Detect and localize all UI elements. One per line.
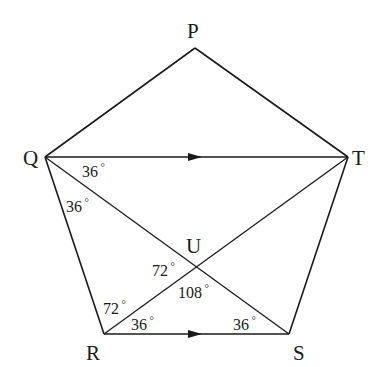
svg-text:36: 36 bbox=[82, 163, 98, 180]
vertex-label-Q: Q bbox=[23, 146, 38, 170]
vertex-label-U: U bbox=[186, 234, 201, 258]
svg-text:36: 36 bbox=[131, 316, 147, 333]
svg-text:36: 36 bbox=[233, 316, 249, 333]
degree-symbol: ° bbox=[149, 314, 153, 326]
angle-label-U-72: 72° bbox=[152, 260, 175, 279]
edge-PQ bbox=[45, 48, 195, 157]
angle-label-Q-36: 36° bbox=[82, 161, 105, 180]
vertex-labels: PQRSTU bbox=[23, 19, 365, 365]
vertex-label-T: T bbox=[352, 146, 365, 170]
degree-symbol: ° bbox=[251, 314, 255, 326]
svg-text:72: 72 bbox=[152, 262, 168, 279]
edge-QR bbox=[45, 157, 104, 334]
degree-symbol: ° bbox=[170, 260, 174, 272]
degree-symbol: ° bbox=[121, 298, 125, 310]
vertex-label-P: P bbox=[187, 19, 199, 43]
svg-text:72: 72 bbox=[103, 300, 119, 317]
svg-text:36: 36 bbox=[66, 198, 82, 215]
arrow-mark-RS bbox=[188, 330, 202, 338]
angle-label-S-36: 36° bbox=[233, 314, 256, 333]
vertex-label-S: S bbox=[293, 341, 305, 365]
degree-symbol: ° bbox=[84, 196, 88, 208]
angle-label-Q-36: 36° bbox=[66, 196, 89, 215]
angle-label-U-108: 108° bbox=[178, 282, 209, 301]
edge-PT bbox=[195, 48, 348, 157]
degree-symbol: ° bbox=[205, 282, 209, 294]
diagram-canvas: PQRSTU 36°36°72°108°72°36°36° bbox=[0, 0, 386, 367]
angle-label-R-72: 72° bbox=[103, 298, 126, 317]
segment-QS bbox=[45, 157, 289, 334]
angle-label-R-36: 36° bbox=[131, 314, 154, 333]
vertex-label-R: R bbox=[86, 341, 100, 365]
degree-symbol: ° bbox=[100, 161, 104, 173]
arrow-mark-QT bbox=[188, 153, 202, 161]
segment-RT bbox=[104, 157, 348, 334]
svg-text:108: 108 bbox=[178, 284, 202, 301]
pentagon-diagram: PQRSTU 36°36°72°108°72°36°36° bbox=[0, 0, 386, 367]
edge-ST bbox=[289, 157, 348, 334]
